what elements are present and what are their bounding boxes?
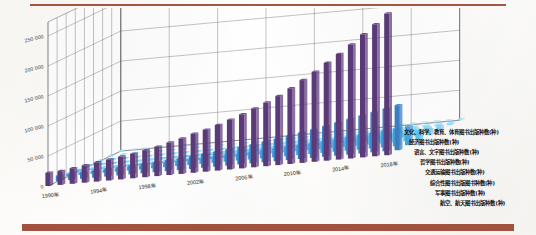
bar bbox=[58, 171, 63, 185]
bar bbox=[336, 54, 341, 160]
svg-text:0: 0 bbox=[40, 183, 44, 190]
bar bbox=[300, 80, 305, 163]
bar bbox=[433, 122, 438, 123]
svg-text:200 000: 200 000 bbox=[24, 63, 44, 73]
legend-item[interactable]: 语言、文字图书出版种数(种) bbox=[414, 148, 479, 156]
bar bbox=[227, 120, 232, 170]
bar bbox=[142, 150, 147, 177]
legend: 文化、科学、教育、体育图书出版种数(种)经济图书出版种数(种)语言、文字图书出版… bbox=[404, 128, 505, 207]
bar bbox=[360, 34, 365, 157]
svg-text:50 000: 50 000 bbox=[27, 153, 44, 163]
bar bbox=[130, 150, 135, 151]
bar bbox=[395, 105, 400, 150]
svg-text:2014年: 2014年 bbox=[332, 164, 351, 174]
bar bbox=[409, 124, 414, 125]
svg-text:150 000: 150 000 bbox=[24, 93, 44, 103]
svg-text:2006年: 2006年 bbox=[235, 173, 254, 183]
bar bbox=[421, 123, 426, 124]
svg-text:1998年: 1998年 bbox=[138, 181, 157, 191]
legend-item[interactable]: 航空、航天图书出版种数(种) bbox=[440, 199, 505, 207]
bar bbox=[275, 96, 280, 165]
svg-text:250 000: 250 000 bbox=[24, 33, 44, 43]
bar bbox=[106, 160, 111, 181]
legend-item[interactable]: 哲学图书出版种数(种) bbox=[420, 158, 470, 166]
svg-text:2018年: 2018年 bbox=[380, 159, 399, 169]
three-d-bar-chart: 050 000100 000150 000200 000250 0001990年… bbox=[0, 8, 536, 222]
svg-text:100 000: 100 000 bbox=[24, 123, 44, 133]
svg-text:1990年: 1990年 bbox=[41, 190, 60, 200]
legend-item[interactable]: 军事图书出版种数(种) bbox=[435, 189, 485, 197]
bar bbox=[447, 123, 452, 125]
bar bbox=[166, 143, 171, 175]
bar bbox=[445, 120, 450, 121]
bar bbox=[108, 156, 113, 157]
legend-item[interactable]: 经济图书出版种数(种) bbox=[409, 138, 459, 146]
bar bbox=[324, 63, 329, 161]
bar bbox=[118, 151, 123, 152]
bar bbox=[372, 24, 377, 156]
bar bbox=[70, 168, 75, 184]
bar bbox=[203, 130, 208, 172]
bar bbox=[191, 134, 196, 173]
svg-text:1994年: 1994年 bbox=[90, 186, 109, 196]
bar bbox=[45, 173, 50, 186]
bar bbox=[312, 72, 317, 162]
chart-figure: 050 000100 000150 000200 000250 0001990年… bbox=[0, 8, 536, 222]
legend-item[interactable]: 文化、科学、教育、体育图书出版种数(种) bbox=[404, 128, 499, 136]
bar bbox=[154, 147, 159, 176]
bar bbox=[348, 45, 353, 159]
bar bbox=[239, 114, 244, 168]
legend-item[interactable]: 综合性图书出版图书种数(种) bbox=[430, 179, 495, 187]
legend-item[interactable]: 交通运输图书出版种数(种) bbox=[425, 168, 485, 176]
bar bbox=[118, 157, 123, 180]
bar bbox=[82, 165, 87, 182]
svg-text:2002年: 2002年 bbox=[187, 177, 206, 187]
bar bbox=[384, 14, 389, 156]
svg-text:2010年: 2010年 bbox=[283, 168, 302, 178]
bar bbox=[130, 154, 135, 179]
bar bbox=[287, 88, 292, 164]
bar bbox=[215, 125, 220, 171]
y-axis-ticks: 050 000100 000150 000200 000250 000 bbox=[24, 33, 44, 190]
bar bbox=[179, 139, 184, 174]
top-rule-divider bbox=[30, 4, 506, 6]
bar bbox=[457, 119, 462, 120]
bar bbox=[263, 103, 268, 167]
bar bbox=[251, 109, 256, 168]
bar bbox=[94, 162, 99, 181]
bottom-band-divider bbox=[22, 224, 514, 231]
